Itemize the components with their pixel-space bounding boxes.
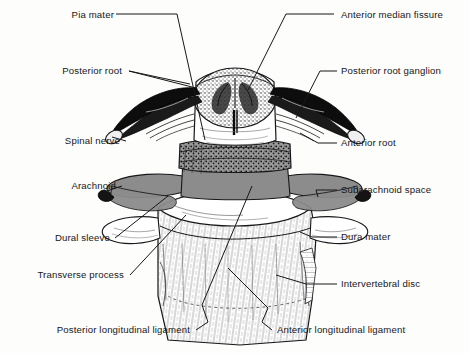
label-anterior-longitudinal-ligament: Anterior longitudinal ligament [277,324,405,335]
label-intervertebral-disc: Intervertebral disc [341,278,420,289]
label-dural-sleeve: Dural sleeve [24,232,110,243]
label-dura-mater: Dura mater [341,231,390,242]
spinal-cord-illustration [0,0,469,353]
label-subarachnoid-space: Subarachnoid space [341,184,431,195]
posterior-root-left [110,88,202,140]
transverse-process-left [102,217,160,244]
label-spinal-nerve: Spinal nerve [28,135,120,146]
label-anterior-root: Anterior root [341,137,396,148]
label-transverse-process: Transverse process [6,269,124,280]
label-posterior-root-ganglion: Posterior root ganglion [341,65,441,76]
label-pia-mater: Pia mater [42,9,114,20]
label-posterior-longitudinal-ligament: Posterior longitudinal ligament [4,324,190,335]
leader-anterior-root [300,133,337,143]
vertebral-body-group [102,191,368,345]
label-arachnoid: Arachnoid [36,180,116,191]
label-anterior-median-fissure: Anterior median fissure [341,9,443,20]
spinal-cord-cross-section [194,68,276,145]
posterior-root-right [268,88,360,140]
figure-canvas: Pia mater Posterior root Spinal nerve Ar… [0,0,469,353]
label-posterior-root: Posterior root [22,65,122,76]
